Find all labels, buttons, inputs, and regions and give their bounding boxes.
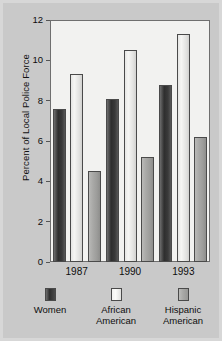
legend-swatch — [111, 288, 122, 301]
bar-1993-women — [159, 85, 172, 262]
legend-label-line2: American — [83, 315, 149, 326]
legend-swatch — [178, 288, 189, 301]
bar-1993-african-american — [177, 34, 190, 262]
legend-label-line1: African — [83, 304, 149, 315]
y-tick-label: 12 — [32, 14, 43, 25]
y-tick-label: 8 — [38, 95, 43, 106]
bar-1993-hispanic-american — [194, 137, 207, 262]
y-tick-label: 0 — [38, 256, 43, 267]
y-tick-label: 6 — [38, 135, 43, 146]
y-tick-label: 2 — [38, 216, 43, 227]
legend-entry-hispanic-american: HispanicAmerican — [150, 288, 216, 326]
y-tick-label: 10 — [32, 54, 43, 65]
legend-swatch — [45, 288, 56, 301]
bar-chart-figure: Percent of Local Police Force 024681012 … — [0, 0, 222, 341]
bar-1987-hispanic-american — [88, 171, 101, 262]
bars-layer — [50, 20, 210, 262]
bar-1990-african-american — [124, 50, 137, 262]
legend-entry-african-american: AfricanAmerican — [83, 288, 149, 326]
bar-1987-women — [53, 109, 66, 262]
y-tick-label: 4 — [38, 175, 43, 186]
legend-label-line1: Hispanic — [150, 304, 216, 315]
x-tick-label-1987: 1987 — [52, 266, 102, 277]
legend-label-line2: American — [150, 315, 216, 326]
bar-1990-women — [106, 99, 119, 262]
x-tick-label-1990: 1990 — [105, 266, 155, 277]
bar-1987-african-american — [70, 74, 83, 262]
x-tick-label-1993: 1993 — [158, 266, 208, 277]
chart-legend: WomenAfricanAmericanHispanicAmerican — [0, 288, 222, 338]
legend-label-line1: Women — [17, 304, 83, 315]
y-axis-title: Percent of Local Police Force — [20, 0, 31, 238]
legend-entry-women: Women — [17, 288, 83, 315]
bar-1990-hispanic-american — [141, 157, 154, 262]
